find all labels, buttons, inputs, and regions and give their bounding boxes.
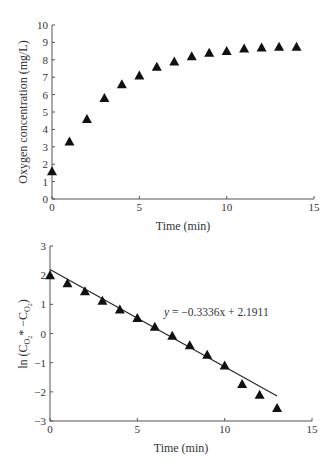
y-tick-label: 2 (41, 269, 47, 281)
bottom-y-axis-label: ln (CO2* −CO2) (16, 299, 33, 369)
y-tick-label: 1 (41, 298, 47, 310)
triangle-marker (239, 43, 249, 52)
y-tick-label: 2 (43, 158, 49, 170)
triangle-marker (185, 340, 195, 349)
triangle-marker (292, 42, 302, 51)
triangle-marker (187, 51, 197, 60)
x-tick-label: 5 (135, 423, 141, 435)
ylabel-suffix: ) (16, 299, 30, 303)
triangle-marker (132, 313, 142, 322)
y-tick-label: 5 (43, 106, 49, 118)
triangle-marker (82, 114, 92, 123)
y-tick-label: 9 (43, 36, 49, 48)
x-tick-label: 15 (307, 423, 319, 435)
triangle-marker (222, 46, 232, 55)
triangle-marker (62, 278, 72, 287)
x-tick-label: 10 (219, 423, 231, 435)
bottom-x-axis-label: Time (min) (154, 441, 209, 455)
bottom-chart-svg: 051015−3−2−10123 y = −0.3336x + 2.1911 T… (0, 235, 334, 469)
top-chart-svg: 051015012345678910 Time (min) Oxygen con… (0, 0, 334, 235)
y-tick-label: 3 (43, 141, 49, 153)
triangle-marker (117, 79, 127, 88)
equation-label: y = −0.3336x + 2.1911 (163, 306, 269, 319)
bottom-axes: 051015−3−2−10123 (34, 240, 318, 435)
x-tick-label: 0 (47, 423, 53, 435)
triangle-marker (274, 42, 284, 51)
y-tick-label: 0 (43, 193, 49, 205)
triangle-marker (99, 93, 109, 102)
triangle-marker (237, 379, 247, 388)
triangle-marker (202, 350, 212, 359)
top-y-axis-label: Oxygen concentration (mg/L) (16, 40, 30, 183)
triangle-marker (152, 62, 162, 71)
ylabel-mid: * −C (16, 312, 30, 336)
y-tick-label: −2 (34, 386, 46, 398)
ylabel-prefix: ln (C (16, 345, 30, 369)
triangle-marker (169, 57, 179, 66)
y-tick-label: 8 (43, 54, 49, 66)
y-tick-label: 7 (43, 71, 49, 83)
y-tick-label: 4 (43, 123, 49, 135)
y-tick-label: 3 (41, 240, 47, 252)
x-tick-label: 10 (221, 201, 233, 213)
triangle-marker (272, 403, 282, 412)
y-tick-label: 1 (43, 176, 49, 188)
y-tick-label: −1 (34, 357, 46, 369)
triangle-marker (47, 166, 57, 175)
bottom-data-points (45, 270, 282, 412)
x-tick-label: 0 (49, 201, 55, 213)
y-tick-label: 10 (37, 19, 49, 31)
top-x-axis-label: Time (min) (156, 219, 211, 233)
oxygen-concentration-chart: 051015012345678910 Time (min) Oxygen con… (0, 0, 334, 235)
x-tick-label: 15 (309, 201, 321, 213)
y-tick-label: −3 (34, 415, 46, 427)
y-tick-label: 6 (43, 89, 49, 101)
top-data-points (47, 42, 302, 175)
y-tick-label: 0 (41, 328, 47, 340)
triangle-marker (257, 43, 267, 52)
triangle-marker (115, 305, 125, 314)
log-deficit-chart: 051015−3−2−10123 y = −0.3336x + 2.1911 T… (0, 235, 334, 469)
equation-body: = −0.3336x + 2.1911 (169, 306, 269, 318)
triangle-marker (64, 137, 74, 146)
triangle-marker (255, 390, 265, 399)
triangle-marker (134, 70, 144, 79)
triangle-marker (204, 48, 214, 57)
x-tick-label: 5 (137, 201, 143, 213)
